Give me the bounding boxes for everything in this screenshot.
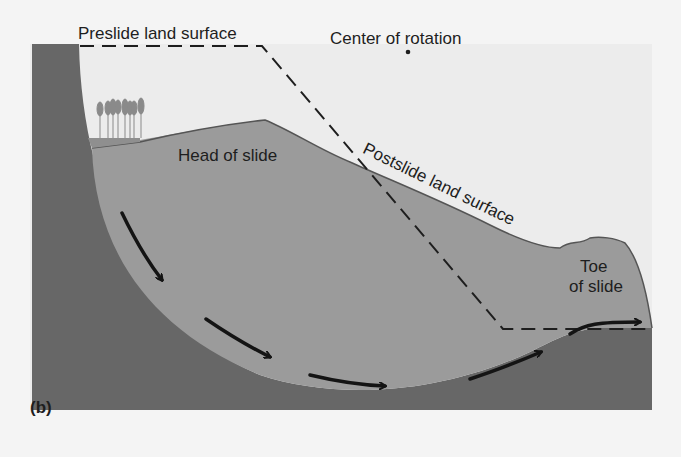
- center-of-rotation-label: Center of rotation: [330, 30, 461, 47]
- preslide-label: Preslide land surface: [78, 25, 237, 42]
- toe-label-line2: of slide: [569, 278, 623, 295]
- toe-label-line1: Toe: [580, 258, 607, 275]
- head-of-slide-label: Head of slide: [178, 147, 277, 164]
- center-of-rotation-dot: [406, 50, 411, 55]
- rotational-slide-diagram: [0, 0, 681, 457]
- panel-label: (b): [30, 398, 52, 418]
